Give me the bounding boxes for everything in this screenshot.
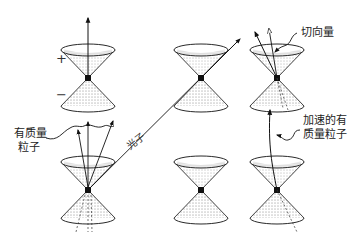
accelerated-line1: 加速的有 (303, 114, 347, 128)
cone-bottom-middle (174, 156, 228, 224)
past-sign-label: − (56, 87, 67, 102)
massive-particle-line2: 粒子 (14, 141, 47, 155)
massive-particle-line1: 有质量 (14, 127, 47, 141)
light-cone-diagram (0, 0, 352, 242)
leader-line-icon (46, 125, 114, 139)
future-sign-label: + (56, 51, 67, 66)
accelerated-line2: 质量粒子 (303, 128, 347, 142)
massive-particle-label: 有质量 粒子 (14, 127, 47, 155)
tangent-vector-label: 切向量 (301, 26, 334, 40)
accelerated-particle-label: 加速的有 质量粒子 (303, 114, 347, 142)
leader-line-icon (277, 130, 300, 140)
